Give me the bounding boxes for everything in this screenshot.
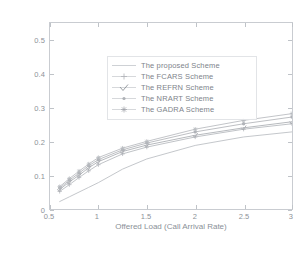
x-axis-title: Offered Load (Call Arrival Rate) [49, 222, 293, 231]
chart-figure: The proposed Scheme The FCARS Scheme [0, 0, 297, 253]
x-label-0: 0.5 [44, 212, 55, 221]
x-axis-tick-labels: 0.5 1 1.5 2 2.5 3 [0, 0, 297, 253]
x-label-3: 2 [193, 212, 197, 221]
x-label-4: 2.5 [239, 212, 250, 221]
x-label-5: 3 [289, 212, 293, 221]
x-label-2: 1.5 [141, 212, 152, 221]
x-label-1: 1 [95, 212, 99, 221]
